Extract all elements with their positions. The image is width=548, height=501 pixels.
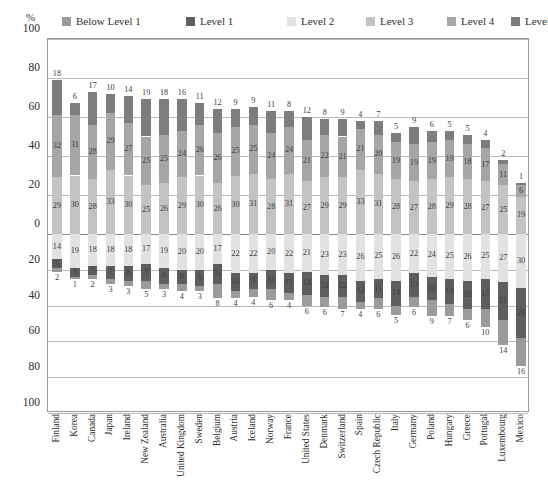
bar-column[interactable]: 3124822114 <box>284 39 294 413</box>
bar-column[interactable]: 2922823126 <box>320 39 330 413</box>
legend-label: Level 5 <box>525 15 548 27</box>
bar-segment <box>481 309 491 327</box>
bar-segment <box>177 131 187 178</box>
bar-segment <box>88 266 98 275</box>
x-axis-label: Portugal <box>479 414 489 446</box>
x-axis-label: United States <box>301 414 311 464</box>
bar-column[interactable]: 2818526166 <box>463 39 473 413</box>
bar-column[interactable]: 3025922104 <box>231 39 241 413</box>
legend-item-level-3[interactable]: Level 3 <box>366 15 413 27</box>
bar-series-container: 2932181452303161951282817185233291018733… <box>48 39 530 413</box>
bar-column[interactable]: 2819624139 <box>427 39 437 413</box>
bar-column[interactable]: 312592294 <box>249 39 259 413</box>
bar-segment <box>320 297 330 308</box>
legend-item-level-5[interactable]: Level 5 <box>511 15 548 27</box>
y-tick-label: 20 <box>0 253 40 265</box>
bar-column[interactable]: 2921923127 <box>338 39 348 413</box>
bar-segment <box>374 279 384 299</box>
bar-segment <box>52 115 62 177</box>
bar-segment <box>231 291 241 298</box>
bar-column[interactable]: 2819526145 <box>391 39 401 413</box>
legend-item-level-2[interactable]: Level 2 <box>287 15 334 27</box>
x-axis-label: Ireland <box>122 414 132 440</box>
legend-item-level-4[interactable]: Level 4 <box>447 15 494 27</box>
bar-column[interactable]: 3120725116 <box>374 39 384 413</box>
bar-segment <box>177 177 187 234</box>
bar-segment <box>320 234 330 275</box>
bar-column[interactable]: 25112272114 <box>498 39 508 413</box>
bar-segment <box>356 281 366 302</box>
bar-segment <box>177 99 187 130</box>
bar-segment <box>266 179 276 234</box>
bar-segment <box>302 117 312 140</box>
bar-segment <box>249 174 259 234</box>
bar-column[interactable]: 28241120116 <box>266 39 276 413</box>
bar-segment <box>284 273 294 293</box>
bar-column[interactable]: 303161951 <box>70 39 80 413</box>
bar-segment <box>249 125 259 174</box>
bar-segment <box>320 177 330 234</box>
bar-segment <box>70 115 80 175</box>
y-tick-label: 40 <box>0 289 40 301</box>
bar-segment <box>320 119 330 135</box>
legend-swatch-icon <box>511 17 520 26</box>
bar-segment <box>284 293 294 300</box>
bar-column[interactable]: 3321426124 <box>356 39 366 413</box>
legend-item-below-level-1[interactable]: Below Level 1 <box>62 15 141 27</box>
y-tick-label: 60 <box>0 100 40 112</box>
bar-column[interactable]: 26261217118 <box>213 39 223 413</box>
bar-segment <box>356 234 366 281</box>
bar-segment <box>409 234 419 273</box>
bar-segment <box>338 137 348 178</box>
segment-value-label-top: 1 <box>506 173 536 181</box>
bar-segment <box>124 123 134 176</box>
bar-segment <box>338 297 348 310</box>
x-axis-label: Belgium <box>212 414 222 446</box>
bar-column[interactable]: 27174251710 <box>481 39 491 413</box>
y-tick-label: 60 <box>0 324 40 336</box>
y-tick-label: 0 <box>0 217 40 229</box>
x-axis-label: Spain <box>354 414 364 435</box>
bar-segment <box>213 264 223 284</box>
bar-segment <box>52 268 62 272</box>
bar-segment <box>159 284 169 289</box>
bar-segment <box>124 266 134 280</box>
bar-segment <box>266 133 276 180</box>
bar-segment <box>249 234 259 273</box>
bar-segment <box>302 140 312 181</box>
bar-column[interactable]: 2828171852 <box>88 39 98 413</box>
bar-segment <box>70 103 80 115</box>
bar-segment <box>516 197 526 234</box>
x-axis-label: Korea <box>69 414 79 437</box>
legend-item-level-1[interactable]: Level 1 <box>186 15 233 27</box>
bar-segment <box>391 234 401 281</box>
bar-segment <box>391 179 401 234</box>
x-axis-label: Switzerland <box>337 414 347 458</box>
bar-segment <box>320 135 330 178</box>
bar-segment <box>159 268 169 284</box>
bar-segment <box>481 181 491 234</box>
bar-column[interactable]: 2719922136 <box>409 39 419 413</box>
bar-segment <box>320 275 330 296</box>
bar-column[interactable]: 27211221136 <box>302 39 312 413</box>
bar-column[interactable]: 3329101873 <box>106 39 116 413</box>
bar-segment <box>302 272 312 295</box>
plot-area: 2932181452303161951282817185233291018733… <box>47 38 529 412</box>
bar-column[interactable]: 1961302816 <box>516 39 526 413</box>
bar-column[interactable]: 3026112093 <box>195 39 205 413</box>
legend-label: Level 2 <box>301 15 334 27</box>
bar-segment <box>409 297 419 308</box>
bar-column[interactable]: 2919525147 <box>445 39 455 413</box>
bar-segment <box>52 259 62 268</box>
legend-swatch-icon <box>287 17 296 26</box>
bar-segment <box>124 281 134 286</box>
legend-label: Level 4 <box>461 15 494 27</box>
bar-segment <box>266 111 276 132</box>
bar-segment <box>159 135 169 184</box>
bar-segment <box>88 92 98 125</box>
x-axis-label: Iceland <box>247 414 257 441</box>
bar-segment <box>231 176 241 235</box>
bar-segment <box>463 281 473 310</box>
bar-segment <box>356 170 366 234</box>
bar-segment <box>374 174 384 234</box>
